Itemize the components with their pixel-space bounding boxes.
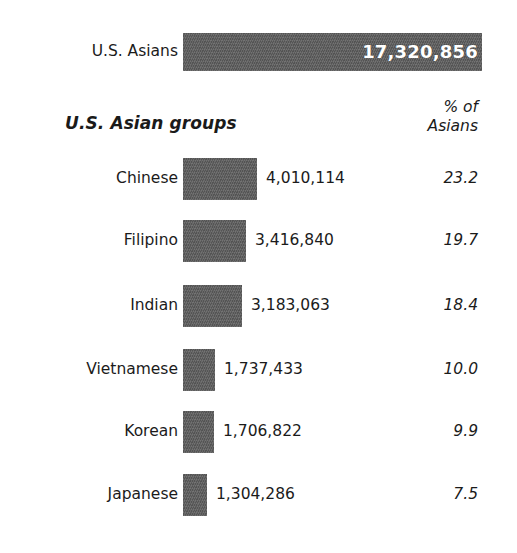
group-row: Indian3,183,06318.4 (0, 285, 517, 327)
group-bar (183, 411, 214, 453)
group-percent: 10.0 (443, 362, 478, 378)
group-bar (183, 220, 246, 262)
group-percent: 19.7 (443, 233, 478, 249)
percent-column-header: % of Asians (428, 98, 478, 136)
group-row: Chinese4,010,11423.2 (0, 158, 517, 200)
group-row: Korean1,706,8229.9 (0, 411, 517, 453)
group-row: Filipino3,416,84019.7 (0, 220, 517, 262)
group-value: 1,304,286 (216, 487, 295, 503)
percent-header-line2: Asians (428, 117, 478, 135)
group-row: Vietnamese1,737,43310.0 (0, 349, 517, 391)
group-value: 1,737,433 (224, 362, 303, 378)
group-bar (183, 349, 215, 391)
group-label: Japanese (108, 487, 178, 503)
group-percent: 23.2 (443, 171, 478, 187)
group-label: Indian (130, 298, 178, 314)
percent-header-line1: % of (443, 98, 478, 116)
group-bar (183, 474, 207, 516)
total-row: U.S. Asians 17,320,856 (0, 33, 517, 71)
column-header-row: U.S. Asian groups % of Asians (0, 98, 517, 140)
group-label: Vietnamese (86, 362, 178, 378)
group-label: Korean (124, 424, 178, 440)
group-percent: 9.9 (453, 424, 478, 440)
total-label: U.S. Asians (92, 44, 178, 60)
total-value: 17,320,856 (362, 43, 478, 61)
group-value: 1,706,822 (223, 424, 302, 440)
group-row: Japanese1,304,2867.5 (0, 474, 517, 516)
group-value: 4,010,114 (266, 171, 345, 187)
group-bar (183, 285, 242, 327)
groups-column-title: U.S. Asian groups (65, 115, 237, 132)
group-percent: 18.4 (443, 298, 478, 314)
group-value: 3,416,840 (255, 233, 334, 249)
group-label: Chinese (116, 171, 178, 187)
group-percent: 7.5 (453, 487, 478, 503)
group-bar (183, 158, 257, 200)
asian-population-bar-chart: U.S. Asians 17,320,856 U.S. Asian groups… (0, 0, 517, 553)
group-value: 3,183,063 (251, 298, 330, 314)
group-label: Filipino (124, 233, 178, 249)
